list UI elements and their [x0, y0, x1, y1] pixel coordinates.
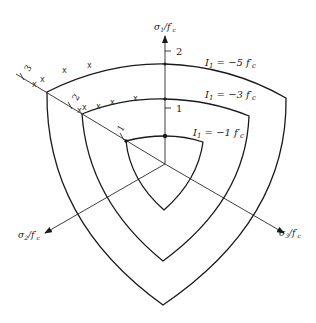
dot-middle: [164, 98, 167, 101]
data-markers: x x x x x x x x x: [32, 61, 138, 115]
failure-surface-diagram: 2 1 1 2 3 x x x x x x x x x I1 = −5 f′: [0, 0, 316, 323]
label-middle: I1 = −3 f′c: [204, 89, 256, 102]
curve-labels: I1 = −5 f′c I1 = −3 f′c I1 = −1 f′c: [192, 57, 256, 140]
dot-outer: [164, 63, 167, 66]
sigma1-label: σ1/f′c: [154, 22, 176, 33]
svg-text:x: x: [40, 75, 45, 84]
failure-curves: [47, 64, 286, 305]
sigma2-axis: [45, 164, 165, 233]
dot-inner: [163, 134, 167, 138]
sigma1-ticks: 2 1: [165, 46, 182, 114]
svg-text:x: x: [133, 94, 138, 103]
svg-text:x: x: [87, 61, 92, 70]
hydro-tick-1: 1: [115, 123, 127, 133]
sigma2-label: σ2/f′c: [18, 230, 40, 241]
sigma3-label: σ3/f′c: [279, 228, 301, 239]
svg-text:x: x: [32, 80, 37, 89]
svg-text:x: x: [110, 98, 115, 107]
dot-inner-hydro: [124, 139, 128, 143]
curve-outer: [47, 64, 286, 305]
tick-label-2: 2: [176, 46, 182, 57]
label-inner: I1 = −1 f′c: [192, 127, 244, 140]
svg-text:x: x: [82, 103, 87, 112]
hydrostatic-axis: [16, 74, 165, 164]
curve-middle: [82, 99, 249, 261]
sigma3-axis: [165, 164, 284, 233]
svg-text:x: x: [62, 66, 67, 75]
label-outer: I1 = −5 f′c: [204, 57, 256, 70]
svg-text:x: x: [96, 102, 101, 111]
hydro-tick-2: 2: [70, 92, 82, 102]
tick-label-1: 1: [176, 103, 182, 114]
hydro-tick-3: 3: [22, 63, 34, 73]
